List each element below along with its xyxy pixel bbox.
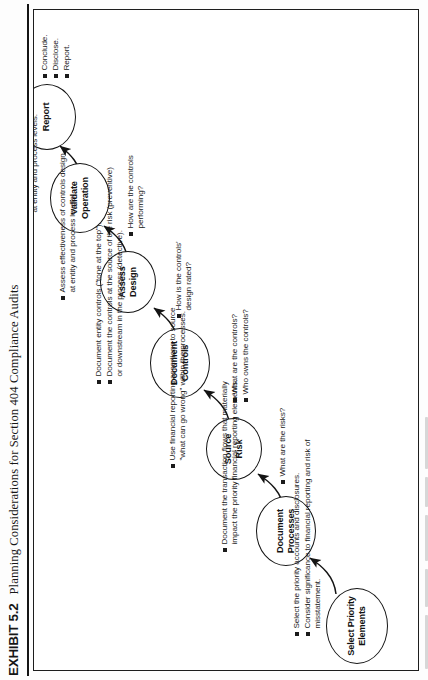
bullet-item: What are the risks? xyxy=(278,364,288,484)
annotation-select-priority-elements: Select the priority accounts and disclos… xyxy=(292,404,324,636)
bullet-item: Document the controls at the source of t… xyxy=(105,166,126,384)
figure-frame: Select Priority Elements Document Proces… xyxy=(33,9,419,671)
questions-document-controls: What are the controls? Who owns the cont… xyxy=(230,272,252,402)
node-line-1: Select Priority xyxy=(346,596,357,656)
question-assess-design: How is the controls' design rated? xyxy=(174,222,195,318)
exhibit-page: EXHIBIT 5.2 Planning Considerations for … xyxy=(0,0,428,680)
bullet-item: Document entity controls ("tone at the t… xyxy=(94,166,104,384)
node-line-2: Operation xyxy=(80,177,91,219)
bullet-item: Assess effectiveness of controls design … xyxy=(58,150,79,300)
flow-connectors xyxy=(34,9,419,670)
annotation-report: Conclude. Disclose. Report. xyxy=(40,16,73,78)
bullet-item: Select the priority accounts and disclos… xyxy=(292,404,302,636)
page-footer-artifacts xyxy=(424,371,428,671)
node-line-1: Report xyxy=(41,103,52,132)
exhibit-header: EXHIBIT 5.2 Planning Considerations for … xyxy=(6,36,28,676)
annotation-validate-operation: Test effectiveness of controls operation… xyxy=(33,70,41,220)
bullet-item: Report. xyxy=(62,16,72,78)
bullet-item: What are the controls? xyxy=(230,272,240,402)
bullet-item: Consider significance to financial repor… xyxy=(303,404,324,636)
exhibit-number: EXHIBIT 5.2 xyxy=(6,604,21,676)
bullet-item: Who owns the controls? xyxy=(241,272,251,402)
exhibit-title: Planning Considerations for Section 404 … xyxy=(7,284,22,594)
node-line-2: Design xyxy=(128,266,139,297)
bullet-item: Test effectiveness of controls operation… xyxy=(33,70,41,220)
question-validate-operation: How are the controls performing? xyxy=(126,136,147,236)
annotation-document-controls: Document entity controls ("tone at the t… xyxy=(94,166,126,384)
question-source-risk: What are the risks? xyxy=(278,364,289,484)
bullet-item: Disclose. xyxy=(51,16,61,78)
node-line-2: Elements xyxy=(357,596,368,656)
bullet-item: Conclude. xyxy=(40,16,50,78)
rotated-exhibit-canvas: EXHIBIT 5.2 Planning Considerations for … xyxy=(0,0,428,680)
title-divider xyxy=(27,4,29,676)
bullet-item: How is the controls' design rated? xyxy=(174,222,195,318)
flow-node-select-priority-elements[interactable]: Select Priority Elements xyxy=(326,588,388,664)
node-line-1: Document xyxy=(275,509,286,554)
bullet-item: How are the controls performing? xyxy=(126,136,147,236)
annotation-assess-design: Assess effectiveness of controls design … xyxy=(58,150,79,300)
